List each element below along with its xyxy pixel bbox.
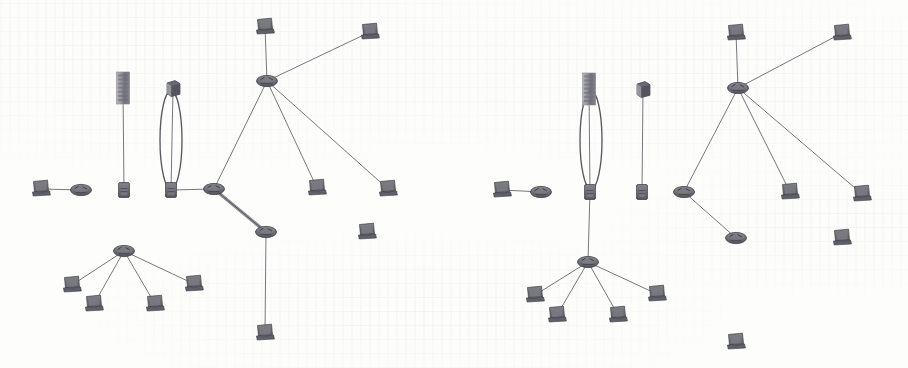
workstation-fan-2[interactable] xyxy=(85,295,103,311)
link-router-fan-pc-f1 xyxy=(72,251,124,285)
server-tower-a[interactable] xyxy=(583,73,596,105)
workstation-fan-1[interactable] xyxy=(526,286,544,302)
router-north[interactable] xyxy=(728,82,749,93)
diagram-page xyxy=(0,0,908,368)
router-fan-bottom[interactable] xyxy=(114,245,135,256)
workstation-fan-3[interactable] xyxy=(609,306,627,322)
router-north[interactable] xyxy=(257,75,278,86)
workstation-west[interactable] xyxy=(493,181,511,197)
network-topology-canvas xyxy=(0,0,908,368)
device-cube-a[interactable] xyxy=(637,82,650,98)
link-switch-a-router-fan xyxy=(588,192,590,262)
switch-b[interactable] xyxy=(637,185,648,200)
switch-a[interactable] xyxy=(585,185,596,200)
switch-b[interactable] xyxy=(166,183,177,198)
workstation-north-1[interactable] xyxy=(256,18,274,34)
link-router-core-router-north xyxy=(214,81,267,189)
workstation-fan-1[interactable] xyxy=(63,276,81,292)
workstation-north-2[interactable] xyxy=(361,23,379,39)
link-switch-b-cube-a xyxy=(642,91,643,192)
workstation-fan-4[interactable] xyxy=(648,285,666,301)
link-router-fan-pc-f4 xyxy=(124,251,194,284)
link-router-core-router-south xyxy=(684,192,736,238)
workstation-north-4[interactable] xyxy=(853,185,871,201)
link-router-north-pc-n4 xyxy=(738,88,862,194)
router-core[interactable] xyxy=(674,186,695,197)
link-router-south-pc-s2 xyxy=(265,232,266,333)
router-west[interactable] xyxy=(71,184,92,195)
workstation-fan-4[interactable] xyxy=(185,275,203,291)
workstation-north-4[interactable] xyxy=(379,180,397,196)
device-cube-a[interactable] xyxy=(167,81,180,97)
link-router-north-pc-n2 xyxy=(267,32,370,81)
switch-a[interactable] xyxy=(119,183,130,198)
router-south[interactable] xyxy=(256,226,277,237)
highlight-ellipse xyxy=(580,91,602,189)
router-core[interactable] xyxy=(204,183,225,194)
router-south[interactable] xyxy=(726,232,747,243)
workstation-fan-2[interactable] xyxy=(548,306,566,322)
links-layer xyxy=(41,27,862,342)
workstation-north-3[interactable] xyxy=(781,183,799,199)
workstation-south-east[interactable] xyxy=(358,223,376,239)
link-router-north-pc-n1 xyxy=(736,33,738,88)
workstation-north-2[interactable] xyxy=(833,24,851,40)
link-router-north-pc-n2 xyxy=(738,33,842,88)
router-fan-bottom[interactable] xyxy=(578,256,599,267)
server-tower-a[interactable] xyxy=(117,72,130,104)
link-router-north-pc-n3 xyxy=(738,88,790,192)
link-router-fan-pc-f4 xyxy=(588,262,657,294)
workstation-fan-3[interactable] xyxy=(146,295,164,311)
link-router-core-router-north xyxy=(684,88,738,192)
nodes-layer xyxy=(32,18,871,349)
annotations-layer xyxy=(160,91,602,189)
workstation-west[interactable] xyxy=(32,180,50,196)
router-west[interactable] xyxy=(531,186,552,197)
link-router-fan-pc-f1 xyxy=(535,262,588,295)
workstation-south-low[interactable] xyxy=(256,324,274,340)
workstation-north-3[interactable] xyxy=(308,179,326,195)
link-switch-b-cube-a xyxy=(171,90,173,190)
workstation-south-east[interactable] xyxy=(833,229,851,245)
workstation-north-1[interactable] xyxy=(727,24,745,40)
workstation-south-low[interactable] xyxy=(727,333,745,349)
link-router-north-pc-n3 xyxy=(267,81,317,188)
link-router-north-pc-n1 xyxy=(265,27,267,81)
link-router-north-pc-n4 xyxy=(267,81,388,189)
link-router-core-router-south-core xyxy=(214,189,266,232)
